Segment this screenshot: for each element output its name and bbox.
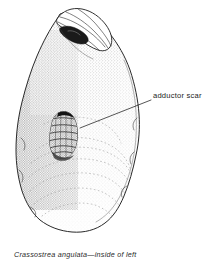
- figure-caption: Crassostrea angulata—inside of left: [14, 250, 137, 259]
- oyster-shell-illustration: adductor scar: [0, 0, 213, 265]
- adductor-scar-label: adductor scar: [153, 91, 202, 100]
- figure-root: adductor scar Crassostrea angulata—insid…: [0, 0, 213, 265]
